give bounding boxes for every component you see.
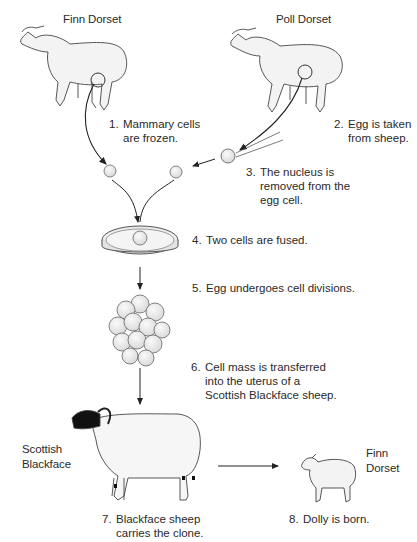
poll-dorset-label: Poll Dorset <box>276 12 331 26</box>
egg-cell-icon <box>221 149 235 163</box>
step-number: 2. <box>334 117 344 131</box>
offspring-finn-dorset-label: Finn Dorset <box>366 446 399 476</box>
step-text: Dolly is born. <box>289 512 369 526</box>
step-text: removed from the <box>246 179 350 193</box>
label-line: Finn <box>366 446 399 461</box>
step-2: 2. Egg is taken from sheep. <box>334 117 411 145</box>
label-line: Dorset <box>366 461 399 476</box>
label-line: Scottish <box>22 442 71 457</box>
step-text: from sheep. <box>334 131 411 145</box>
step-text: Two cells are fused. <box>192 233 308 247</box>
poll-dorset-sheep-icon <box>231 28 343 112</box>
petri-dish-icon <box>102 226 178 254</box>
step-text: Cell mass is transferred <box>191 360 337 374</box>
finn-dorset-sheep-icon <box>21 26 127 110</box>
finn-dorset-label: Finn Dorset <box>63 12 121 26</box>
step-number: 6. <box>191 360 201 374</box>
scottish-blackface-sheep-icon <box>72 408 200 500</box>
step-text: are frozen. <box>109 131 200 145</box>
step-4: 4. Two cells are fused. <box>192 233 308 247</box>
step-text: carries the clone. <box>102 526 204 540</box>
step-number: 3. <box>246 165 256 179</box>
step-text: The nucleus is <box>246 165 350 179</box>
step-3: 3. The nucleus is removed from the egg c… <box>246 165 350 207</box>
step-number: 1. <box>109 117 119 131</box>
step-text: Egg is taken <box>334 117 411 131</box>
step-number: 8. <box>289 512 299 526</box>
step-1: 1. Mammary cells are frozen. <box>109 117 200 145</box>
dolly-lamb-icon <box>302 454 356 502</box>
step-text: egg cell. <box>246 193 350 207</box>
label-line: Blackface <box>22 457 71 472</box>
arrow-egg-to-dish <box>140 180 174 222</box>
step-number: 4. <box>192 233 202 247</box>
scottish-blackface-label: Scottish Blackface <box>22 442 71 472</box>
mammary-cell-icon <box>104 165 116 177</box>
arrow-to-enucleated-egg <box>193 159 215 166</box>
step-text: into the uterus of a <box>191 374 337 388</box>
step-number: 5. <box>192 281 202 295</box>
step-5: 5. Egg undergoes cell divisions. <box>192 281 355 295</box>
step-text: Scottish Blackface sheep. <box>191 388 337 402</box>
step-7: 7. Blackface sheep carries the clone. <box>102 512 204 540</box>
step-text: Egg undergoes cell divisions. <box>192 281 355 295</box>
step-number: 7. <box>102 512 112 526</box>
arrow-cell-to-dish <box>112 180 138 222</box>
pipette-line <box>236 132 280 153</box>
step-8: 8. Dolly is born. <box>289 512 369 526</box>
step-text: Mammary cells <box>109 117 200 131</box>
step-text: Blackface sheep <box>102 512 204 526</box>
cell-mass-icon <box>109 295 170 366</box>
enucleated-egg-icon <box>170 166 182 178</box>
step-6: 6. Cell mass is transferred into the ute… <box>191 360 337 402</box>
